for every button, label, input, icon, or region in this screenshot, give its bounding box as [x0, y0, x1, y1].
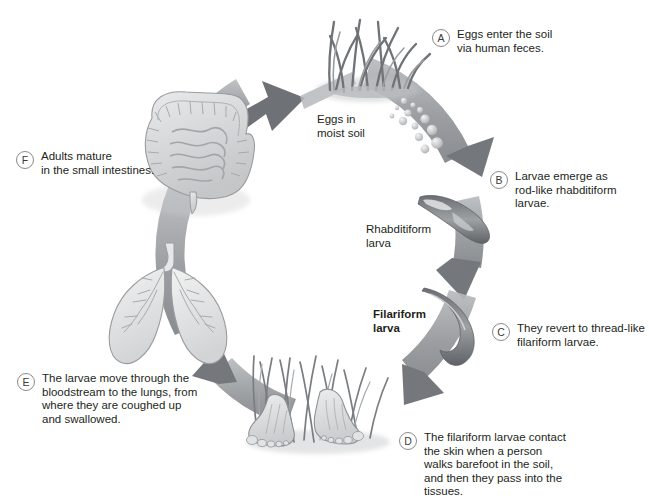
callout-b: B Larvae emerge as rod-like rhabditiform… [490, 170, 617, 211]
callout-d: D The filariform larvae contact the skin… [399, 431, 566, 499]
callout-c-text: They revert to thread-like filariform la… [517, 322, 645, 349]
callout-c: C They revert to thread-like filariform … [492, 322, 645, 349]
callout-f-text: Adults mature in the small intestines. [41, 150, 154, 177]
lifecycle-illustration [0, 0, 649, 503]
callout-e: E The larvae move through the bloodstrea… [17, 372, 197, 426]
badge-c: C [492, 323, 510, 341]
callout-a-text: Eggs enter the soil via human feces. [457, 28, 552, 55]
label-rhabditiform-larva: Rhabditiform larva [366, 223, 431, 250]
badge-d: D [399, 432, 417, 450]
callout-e-text: The larvae move through the bloodstream … [42, 372, 197, 426]
label-filariform-larva: Filariform larva [373, 308, 426, 335]
label-eggs-in-moist-soil: Eggs in moist soil [317, 113, 365, 140]
intestines-illustration [142, 92, 255, 216]
badge-f: F [16, 151, 34, 169]
badge-a: A [432, 29, 450, 47]
callout-a: A Eggs enter the soil via human feces. [432, 28, 552, 55]
callout-d-text: The filariform larvae contact the skin w… [424, 431, 566, 499]
badge-e: E [17, 373, 35, 391]
bare-feet-illustration [246, 356, 390, 454]
badge-b: B [490, 171, 508, 189]
diagram-canvas: Eggs in moist soil Rhabditiform larva Fi… [0, 0, 649, 503]
callout-f: F Adults mature in the small intestines. [16, 150, 154, 177]
callout-b-text: Larvae emerge as rod-like rhabditiform l… [515, 170, 617, 211]
